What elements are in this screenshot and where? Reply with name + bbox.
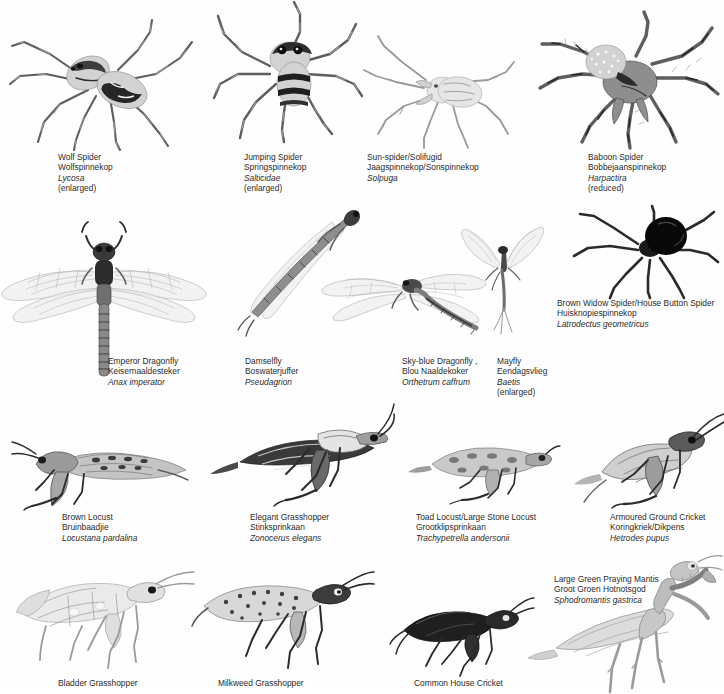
bladder-grasshopper-illustration [12,556,198,676]
caption-brown-widow-spider: Brown Widow Spider/House Button Spider H… [557,298,714,329]
sun-spider-illustration [358,36,518,150]
specimen-name-sci: Baetis [497,377,547,387]
specimen-name-en: Damselfly [245,356,298,366]
specimen-name-af: Blou Naaldekoker [402,366,477,376]
specimen-name-af: Eendagsvlieg [497,366,547,376]
specimen-name-en: Elegant Grasshopper [250,512,329,522]
figure-elegant-grasshopper [198,390,394,510]
caption-brown-locust: Brown Locust Bruinbaadjie Locustana pard… [62,512,137,543]
caption-baboon-spider: Baboon Spider Bobbejaanspinnekop Harpact… [588,152,666,194]
specimen-name-en: Wolf Spider [58,152,113,162]
caption-toad-locust: Toad Locust/Large Stone Locust Grootklip… [416,512,536,543]
specimen-name-en: Armoured Ground Cricket [610,512,705,522]
common-house-cricket-illustration [386,594,534,678]
specimen-name-en: Mayfly [497,356,547,366]
specimen-name-en: Toad Locust/Large Stone Locust [416,512,536,522]
specimen-name-sci: Zonocerus elegans [250,533,329,543]
figure-toad-locust [402,430,556,508]
milkweed-grasshopper-illustration [188,560,374,676]
caption-armoured-ground-cricket: Armoured Ground Cricket Koringkriek/Dikp… [610,512,705,543]
specimen-name-sci: Locustana pardalina [62,533,137,543]
specimen-name-en: Baboon Spider [588,152,666,162]
specimen-name-af: Bruinbaadjie [62,522,137,532]
figure-baboon-spider [536,12,724,150]
caption-sun-spider: Sun-spider/Solifugid Jaagspinnekop/Sonsp… [367,152,479,183]
figure-wolf-spider [10,18,200,150]
specimen-name-af: Koringkriek/Dikpens [610,522,705,532]
baboon-spider-illustration [536,12,724,150]
specimen-name-en: Bladder Grasshopper [58,678,138,688]
specimen-name-af: Grootklipsprinkaan [416,522,536,532]
brown-locust-illustration [8,424,202,512]
specimen-name-sci: Orthetrum caffrum [402,377,477,387]
specimen-name-en: Sun-spider/Solifugid [367,152,479,162]
caption-wolf-spider: Wolf Spider Wolfspinnekop Lycosa (enlarg… [58,152,113,194]
toad-locust-illustration [402,430,556,508]
elegant-grasshopper-illustration [198,390,394,510]
figure-common-house-cricket [386,594,534,678]
caption-emperor-dragonfly: Emperor Dragonfly Keisernaaldesteker Ana… [108,356,180,387]
specimen-scale-note: (enlarged) [58,183,113,193]
figure-armoured-ground-cricket [566,410,724,510]
figure-bladder-grasshopper [12,556,198,676]
specimen-scale-note: (enlarged) [497,387,547,397]
specimen-name-en: Large Green Praying Mantis [554,574,659,584]
specimen-name-en: Brown Widow Spider/House Button Spider [557,298,714,308]
specimen-scale-note: (reduced) [588,183,666,193]
specimen-name-en: Milkweed Grasshopper [218,678,304,688]
specimen-name-en: Sky-blue Dragonfly , [402,356,477,366]
specimen-name-af: Springspinnekop [244,162,306,172]
caption-common-house-cricket: Common House Cricket [414,678,503,688]
specimen-name-af: Wolfspinnekop [58,162,113,172]
caption-bladder-grasshopper: Bladder Grasshopper [58,678,138,688]
wolf-spider-illustration [10,18,200,150]
caption-damselfly: Damselfly Boswaterjuffer Pseudagrion [245,356,298,387]
armoured-ground-cricket-illustration [566,410,724,510]
specimen-name-sci: Latrodectus geometricus [557,319,714,329]
figure-brown-widow-spider [566,206,724,298]
specimen-name-af: Bobbejaanspinnekop [588,162,666,172]
caption-elegant-grasshopper: Elegant Grasshopper Stinksprinkaan Zonoc… [250,512,329,543]
specimen-name-en: Common House Cricket [414,678,503,688]
specimen-name-sci: Sphodromantis gastrica [554,595,659,605]
caption-sky-blue-dragonfly: Sky-blue Dragonfly , Blou Naaldekoker Or… [402,356,477,387]
specimen-name-af: Stinksprinkaan [250,522,329,532]
figure-brown-locust [8,424,202,512]
specimen-name-af: Keisernaaldesteker [108,366,180,376]
caption-milkweed-grasshopper: Milkweed Grasshopper [218,678,304,688]
specimen-scale-note: (enlarged) [244,183,306,193]
specimen-name-sci: Trachypetrella andersonii [416,533,536,543]
jumping-spider-illustration [208,0,366,146]
caption-mayfly: Mayfly Eendagsvlieg Baetis (enlarged) [497,356,547,398]
specimen-name-af: Jaagspinnekop/Sonspinnekop [367,162,479,172]
figure-sun-spider [358,36,518,150]
brown-widow-spider-illustration [566,206,724,298]
specimen-name-sci: Harpactira [588,173,666,183]
mayfly-illustration [442,222,566,336]
specimen-name-af: Huisknopiespinnekop [557,308,714,318]
specimen-name-sci: Hetrodes pupus [610,533,705,543]
specimen-name-en: Brown Locust [62,512,137,522]
figure-mayfly [442,222,566,336]
specimen-name-sci: Salticidae [244,173,306,183]
specimen-name-en: Emperor Dragonfly [108,356,180,366]
specimen-name-en: Jumping Spider [244,152,306,162]
figure-milkweed-grasshopper [188,560,374,676]
specimen-name-sci: Solpuga [367,173,479,183]
specimen-name-sci: Anax imperator [108,377,180,387]
specimen-name-af: Groot Groen Hotnotsgod [554,584,659,594]
caption-jumping-spider: Jumping Spider Springspinnekop Salticida… [244,152,306,194]
specimen-name-af: Boswaterjuffer [245,366,298,376]
specimen-name-sci: Pseudagrion [245,377,298,387]
figure-jumping-spider [208,0,366,146]
specimen-name-sci: Lycosa [58,173,113,183]
caption-praying-mantis: Large Green Praying Mantis Groot Groen H… [554,574,659,605]
